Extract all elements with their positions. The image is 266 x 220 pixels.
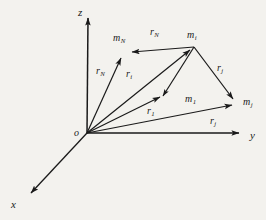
diagram-canvas [0, 0, 266, 220]
vector-diagram-figure: z y x o mN mi m1 mj rN rN ri r1 rj rj [0, 0, 266, 220]
origin-label: o [74, 128, 79, 138]
position-vector-ri [87, 50, 190, 133]
z-axis-line [87, 18, 88, 133]
mass-node-label-j: mj [243, 97, 253, 109]
axis-label-x: x [11, 199, 16, 210]
axis-group [31, 18, 239, 193]
mass-node-label-1: m1 [185, 94, 196, 106]
axis-label-z: z [78, 7, 82, 18]
relative-vector-rN [132, 47, 194, 52]
vector-label-rj-relative: rj [217, 63, 223, 75]
relative-vector-r1 [163, 47, 194, 96]
vector-label-r1: r1 [147, 106, 155, 118]
vector-label-rj-origin: rj [210, 116, 216, 128]
vector-label-ri: ri [126, 69, 132, 81]
mass-node-label-i: mi [187, 30, 197, 42]
x-axis-line [31, 133, 87, 193]
relative-vector-rj [194, 47, 233, 99]
mass-node-label-N: mN [113, 33, 125, 45]
axis-label-y: y [250, 130, 255, 141]
vector-label-rN-relative: rN [150, 27, 159, 39]
vector-label-rN-origin: rN [96, 66, 105, 78]
